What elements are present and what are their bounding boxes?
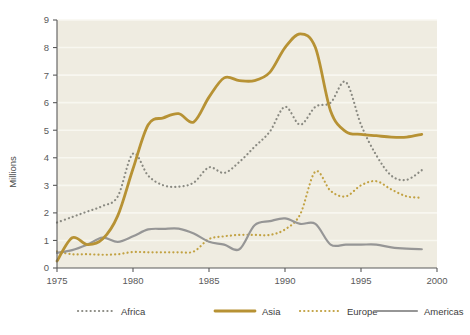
legend-label-asia: Asia xyxy=(262,306,281,317)
x-tick-label-1975: 1975 xyxy=(46,275,67,286)
line-chart: 0123456789197519801985199019952000Millio… xyxy=(0,0,470,335)
x-tick-label-1995: 1995 xyxy=(350,275,371,286)
y-tick-label-7: 7 xyxy=(44,70,49,81)
y-tick-label-4: 4 xyxy=(44,152,49,163)
y-tick-label-3: 3 xyxy=(44,180,49,191)
legend-label-europe: Europe xyxy=(347,306,378,317)
y-tick-label-5: 5 xyxy=(44,125,49,136)
chart-container: 0123456789197519801985199019952000Millio… xyxy=(0,0,470,335)
x-tick-label-1990: 1990 xyxy=(274,275,295,286)
x-tick-label-2000: 2000 xyxy=(426,275,447,286)
plot-area-background xyxy=(57,20,437,268)
y-tick-label-2: 2 xyxy=(44,207,49,218)
legend-group: AfricaAsiaEuropeAmericas xyxy=(78,306,464,317)
y-tick-label-6: 6 xyxy=(44,97,49,108)
legend-label-americas: Americas xyxy=(424,306,464,317)
y-tick-label-8: 8 xyxy=(44,42,49,53)
x-tick-label-1980: 1980 xyxy=(122,275,143,286)
plot-background-group xyxy=(57,20,437,268)
y-axis-title: Millions xyxy=(7,156,18,188)
y-tick-label-1: 1 xyxy=(44,235,49,246)
y-tick-label-0: 0 xyxy=(44,262,49,273)
y-tick-label-9: 9 xyxy=(44,14,49,25)
x-tick-label-1985: 1985 xyxy=(198,275,219,286)
legend-label-africa: Africa xyxy=(121,306,146,317)
